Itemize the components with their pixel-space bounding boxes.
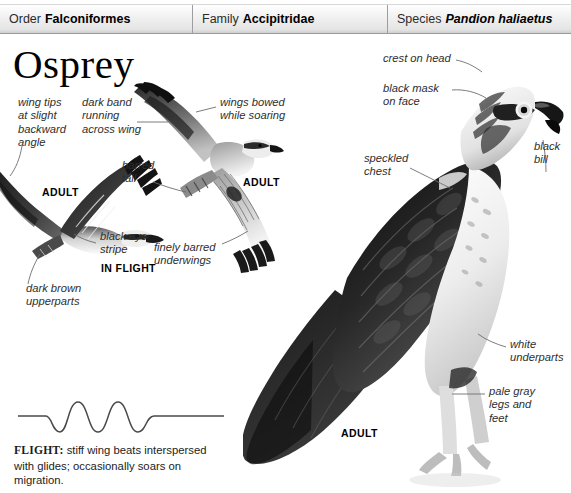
taxonomy-rank-species: Species	[397, 12, 441, 26]
caption-in-flight: IN FLIGHT	[101, 262, 156, 274]
annotation-white-underparts: white underparts	[510, 338, 564, 365]
taxonomy-header: Order Falconiformes Family Accipitridae …	[0, 4, 571, 34]
caption-adult-perched: ADULT	[341, 427, 378, 439]
page-title: Osprey	[13, 44, 134, 85]
annotation-speckled-chest: speckled chest	[364, 152, 408, 179]
taxonomy-name-order: Falconiformes	[45, 12, 130, 26]
taxonomy-name-family: Accipitridae	[243, 12, 315, 26]
caption-adult-flying: ADULT	[42, 186, 79, 198]
flight-description: FLIGHT: stiff wing beats interspersed wi…	[14, 443, 229, 488]
annotation-finely-barred: finely barred underwings	[154, 241, 216, 268]
annotation-dark-band: dark band running across wing	[82, 96, 141, 136]
flight-pattern-diagram	[18, 396, 224, 436]
taxonomy-cell-order: Order Falconiformes	[0, 5, 192, 33]
annotation-barred-tail: barred tail	[122, 159, 154, 186]
annotation-dark-brown: dark brown upperparts	[26, 282, 81, 309]
flight-label: FLIGHT:	[14, 444, 64, 457]
annotation-pale-gray-legs: pale gray legs and feet	[489, 385, 535, 425]
taxonomy-cell-species: Species Pandion haliaetus	[387, 5, 571, 33]
taxonomy-cell-family: Family Accipitridae	[192, 5, 387, 33]
annotation-black-bill: black bill	[534, 140, 560, 167]
field-guide-page: Order Falconiformes Family Accipitridae …	[0, 0, 571, 493]
taxonomy-name-species: Pandion haliaetus	[445, 12, 552, 26]
taxonomy-rank-order: Order	[9, 12, 41, 26]
flight-wave-path	[18, 402, 224, 432]
caption-adult-soaring: ADULT	[243, 176, 280, 188]
annotation-black-eye-stripe: black eye stripe	[100, 230, 147, 257]
annotation-crest-on-head: crest on head	[383, 52, 451, 65]
annotation-wing-tips: wing tips at slight backward angle	[18, 96, 66, 150]
annotation-wings-bowed: wings bowed while soaring	[220, 96, 285, 123]
annotation-black-mask: black mask on face	[383, 82, 439, 109]
taxonomy-rank-family: Family	[202, 12, 239, 26]
